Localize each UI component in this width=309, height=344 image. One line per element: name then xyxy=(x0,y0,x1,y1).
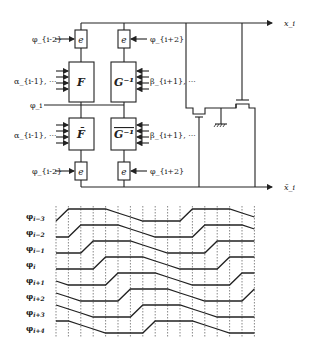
input-label-phi-i-2: φ_{i-2} xyxy=(32,167,62,176)
signal-label: φi+4 xyxy=(26,323,45,334)
signal-label: φi+3 xyxy=(26,307,45,318)
input-label-phi-i+2: φ_{i+2} xyxy=(150,167,184,176)
e-label: e xyxy=(78,167,83,177)
circuit-and-timing-diagram: e e F G⁻¹ F̄ G⁻¹ e e φ_{i-2} φ_{i+2} α_{… xyxy=(0,0,309,344)
output-label-x: x_i xyxy=(284,19,296,28)
timing-diagram: φi−3φi−2φi−1φiφi+1φi+2φi+3φi+4 xyxy=(26,206,254,338)
e-label: e xyxy=(121,167,126,177)
signal-label: φi−3 xyxy=(26,211,45,222)
e-label: e xyxy=(121,35,126,45)
transistor-network xyxy=(186,23,236,114)
alpha-label: α_{i-1}, ··· xyxy=(14,131,57,140)
signal-label: φi+2 xyxy=(26,291,45,302)
f-label: F xyxy=(76,76,86,89)
f-bar-label: F̄ xyxy=(76,127,86,141)
signal-label: φi−2 xyxy=(26,227,45,238)
circuit xyxy=(44,23,272,187)
phi-i-label: φ_i xyxy=(30,101,43,110)
g-inverse-bar-label: G⁻¹ xyxy=(114,128,134,141)
input-label-phi-i-2: φ_{i-2} xyxy=(32,35,62,44)
beta-label: β_{i+1}, ··· xyxy=(150,77,196,86)
e-label: e xyxy=(78,35,83,45)
signal-label: φi xyxy=(26,259,36,270)
g-inverse-label: G⁻¹ xyxy=(114,76,134,89)
signal-label: φi+1 xyxy=(26,275,45,286)
signal-label: φi−1 xyxy=(26,243,45,254)
beta-label: β_{i+1}, ··· xyxy=(150,131,196,140)
output-label-xbar: x̄_i xyxy=(284,183,296,192)
alpha-label: α_{i-1}, ··· xyxy=(14,77,57,86)
input-label-phi-i+2: φ_{i+2} xyxy=(150,35,184,44)
